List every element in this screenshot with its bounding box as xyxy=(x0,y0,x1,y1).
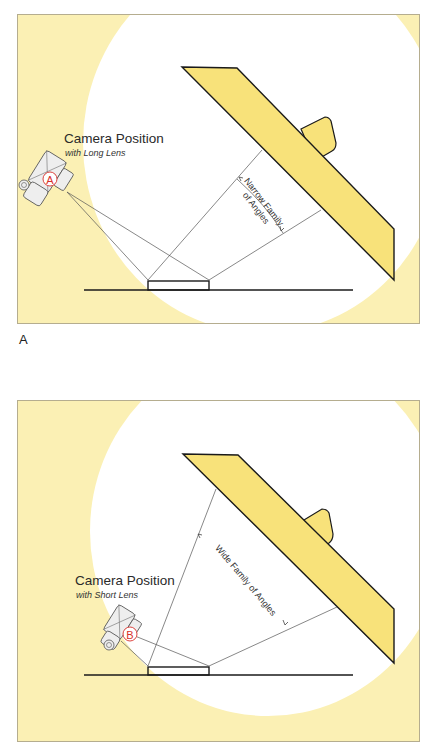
lens-icon xyxy=(19,180,29,190)
light-pool xyxy=(83,15,419,323)
camera-position-subtitle: with Long Lens xyxy=(65,148,126,158)
diagram-panel-b: B Camera Position with Short Lens Wide F… xyxy=(17,400,420,742)
panel-a-drawing: A xyxy=(18,15,419,323)
camera-position-title: Camera Position xyxy=(75,573,175,588)
light-pool xyxy=(90,401,419,716)
svg-text:A: A xyxy=(46,174,54,186)
diagram-panel-a: A Camera Position with Long Lens Narrow … xyxy=(17,14,420,324)
camera-position-subtitle: with Short Lens xyxy=(76,590,138,600)
panel-b-drawing: B xyxy=(18,401,419,741)
camera-position-title: Camera Position xyxy=(64,131,164,146)
lens-icon xyxy=(104,640,114,650)
panel-letter-a: A xyxy=(19,332,28,347)
svg-text:B: B xyxy=(126,629,133,641)
